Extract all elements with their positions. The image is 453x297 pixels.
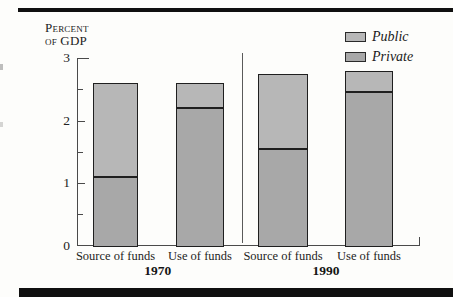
x-axis-end-tick (419, 237, 420, 246)
bar-chart: 0123Source of fundsUse of funds1970Sourc… (0, 0, 453, 297)
stacked-bar (93, 83, 138, 247)
year-label: 1990 (286, 263, 366, 279)
bar-segment-public (259, 75, 307, 150)
bar-segment-public (346, 72, 392, 94)
stacked-bar (345, 71, 393, 247)
y-tick-minor (77, 214, 83, 215)
y-tick-label: 2 (40, 113, 70, 129)
y-tick-label: 1 (40, 175, 70, 191)
y-tick-minor (77, 152, 83, 153)
y-tick-major (77, 121, 85, 122)
y-tick-minor (77, 89, 83, 90)
year-group-separator (242, 53, 243, 243)
x-axis-label: Use of funds (314, 249, 424, 264)
year-label: 1970 (118, 263, 198, 279)
y-tick-major (77, 183, 85, 184)
bar-segment-public (177, 84, 223, 109)
y-tick-major (77, 58, 89, 59)
stacked-bar (258, 74, 308, 247)
scanned-chart-page: { "figure": { "y_axis_title": ["Percent"… (0, 0, 453, 297)
y-tick-label: 3 (40, 50, 70, 66)
bar-segment-public (94, 84, 137, 178)
stacked-bar (176, 83, 224, 247)
